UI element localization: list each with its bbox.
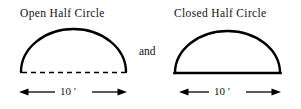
open-dimension-arrowhead-right — [118, 89, 128, 96]
open-half-circle-drawing — [21, 29, 126, 73]
closed-dimension-arrowhead-left — [179, 89, 189, 96]
open-dimension-arrowhead-left — [19, 89, 29, 96]
open-half-circle-dimension-arrow — [19, 89, 127, 96]
figure-canvas: Open Half Circle Closed Half Circle and … — [0, 0, 301, 109]
closed-half-circle-arc — [175, 31, 280, 73]
figure-line-art: | --> — [0, 0, 301, 109]
open-half-circle-arc — [21, 29, 126, 72]
closed-dimension-arrowhead-right — [272, 89, 282, 96]
closed-half-circle-dimension-arrow — [179, 89, 281, 96]
closed-half-circle-drawing — [175, 31, 281, 73]
